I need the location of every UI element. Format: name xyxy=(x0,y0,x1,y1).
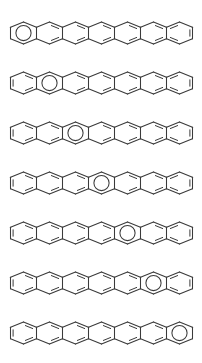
double-bond-bottom-right-ring-1 xyxy=(25,337,32,340)
heptacene-skeleton xyxy=(0,58,202,108)
molecule-row-5 xyxy=(0,208,202,258)
double-bond-bottom-right-ring-1 xyxy=(25,287,32,290)
double-bond-bottom-left-ring-7 xyxy=(170,137,177,140)
bond-bottom-left-ring-6 xyxy=(141,339,154,344)
bond-bottom-left-ring-2 xyxy=(37,339,50,344)
bond-top-left-ring-1 xyxy=(11,322,24,327)
bond-bottom-right-ring-3 xyxy=(76,289,89,294)
molecule-row-1 xyxy=(0,8,202,58)
bond-bottom-right-ring-6 xyxy=(154,189,167,194)
double-bond-bottom-right-ring-6 xyxy=(155,187,162,190)
bond-bottom-left-ring-7 xyxy=(167,139,180,144)
double-bond-top-right-ring-1 xyxy=(25,176,32,179)
bond-bottom-right-ring-6 xyxy=(154,289,167,294)
bond-bottom-left-ring-6 xyxy=(141,89,154,94)
bond-bottom-left-ring-5 xyxy=(115,139,128,144)
bond-bottom-left-ring-2 xyxy=(37,39,50,44)
bond-bottom-right-ring-4 xyxy=(102,89,115,94)
bond-bottom-left-ring-6 xyxy=(141,189,154,194)
bond-top-right-ring-6 xyxy=(154,22,167,27)
double-bond-top-right-ring-2 xyxy=(51,176,58,179)
double-bond-bottom-right-ring-3 xyxy=(77,187,84,190)
bond-bottom-right-ring-1 xyxy=(24,139,37,144)
bond-top-right-ring-2 xyxy=(50,22,63,27)
bond-top-left-ring-6 xyxy=(141,122,154,127)
bond-top-right-ring-4 xyxy=(102,322,115,327)
double-bond-bottom-left-ring-7 xyxy=(170,37,177,40)
bond-bottom-right-ring-1 xyxy=(24,289,37,294)
bond-top-left-ring-4 xyxy=(89,172,102,177)
bond-bottom-right-ring-6 xyxy=(154,89,167,94)
double-bond-bottom-left-ring-7 xyxy=(170,187,177,190)
bond-bottom-left-ring-1 xyxy=(11,89,24,94)
bond-bottom-right-ring-7 xyxy=(180,239,193,244)
bond-top-left-ring-7 xyxy=(167,122,180,127)
double-bond-bottom-right-ring-3 xyxy=(77,37,84,40)
bond-top-left-ring-6 xyxy=(141,322,154,327)
bond-top-right-ring-7 xyxy=(180,322,193,327)
heptacene-skeleton xyxy=(0,208,202,258)
double-bond-top-left-ring-7 xyxy=(170,226,177,229)
bond-top-left-ring-3 xyxy=(63,122,76,127)
bond-top-right-ring-3 xyxy=(76,22,89,27)
double-bond-top-right-ring-1 xyxy=(25,226,32,229)
double-bond-bottom-right-ring-1 xyxy=(25,187,32,190)
aromatic-sextet-circle-ring-4 xyxy=(94,175,109,190)
bond-top-right-ring-1 xyxy=(24,272,37,277)
double-bond-bottom-right-ring-4 xyxy=(103,337,110,340)
bond-bottom-right-ring-2 xyxy=(50,289,63,294)
double-bond-bottom-right-ring-5 xyxy=(129,137,136,140)
bond-bottom-right-ring-6 xyxy=(154,339,167,344)
double-bond-top-right-ring-3 xyxy=(77,226,84,229)
double-bond-top-right-ring-5 xyxy=(129,176,136,179)
double-bond-top-right-ring-1 xyxy=(25,76,32,79)
bond-top-left-ring-1 xyxy=(11,222,24,227)
bond-bottom-right-ring-5 xyxy=(128,339,141,344)
bond-bottom-right-ring-1 xyxy=(24,239,37,244)
bond-bottom-right-ring-7 xyxy=(180,139,193,144)
double-bond-top-right-ring-5 xyxy=(129,276,136,279)
bond-bottom-right-ring-7 xyxy=(180,89,193,94)
heptacene-skeleton xyxy=(0,8,202,58)
bond-bottom-left-ring-4 xyxy=(89,39,102,44)
double-bond-top-right-ring-2 xyxy=(51,26,58,29)
heptacene-skeleton xyxy=(0,108,202,158)
bond-top-right-ring-6 xyxy=(154,322,167,327)
bond-top-left-ring-3 xyxy=(63,322,76,327)
bond-top-right-ring-5 xyxy=(128,172,141,177)
bond-bottom-left-ring-4 xyxy=(89,289,102,294)
bond-bottom-left-ring-4 xyxy=(89,89,102,94)
double-bond-top-right-ring-6 xyxy=(155,176,162,179)
bond-top-right-ring-4 xyxy=(102,272,115,277)
double-bond-bottom-right-ring-6 xyxy=(155,337,162,340)
double-bond-top-left-ring-7 xyxy=(170,26,177,29)
double-bond-top-left-ring-7 xyxy=(170,176,177,179)
bond-bottom-left-ring-3 xyxy=(63,89,76,94)
bond-bottom-left-ring-3 xyxy=(63,39,76,44)
double-bond-top-right-ring-3 xyxy=(77,326,84,329)
bond-top-right-ring-4 xyxy=(102,172,115,177)
bond-top-left-ring-5 xyxy=(115,222,128,227)
bond-top-right-ring-6 xyxy=(154,122,167,127)
bond-top-left-ring-3 xyxy=(63,222,76,227)
double-bond-top-right-ring-4 xyxy=(103,276,110,279)
bond-top-left-ring-7 xyxy=(167,222,180,227)
bond-bottom-right-ring-5 xyxy=(128,89,141,94)
double-bond-top-left-ring-7 xyxy=(170,276,177,279)
heptacene-skeleton xyxy=(0,158,202,208)
double-bond-bottom-right-ring-5 xyxy=(129,87,136,90)
double-bond-top-right-ring-6 xyxy=(155,76,162,79)
bond-top-right-ring-1 xyxy=(24,322,37,327)
bond-top-left-ring-6 xyxy=(141,22,154,27)
bond-top-right-ring-4 xyxy=(102,122,115,127)
bond-bottom-right-ring-2 xyxy=(50,89,63,94)
double-bond-bottom-right-ring-4 xyxy=(103,87,110,90)
double-bond-bottom-right-ring-3 xyxy=(77,87,84,90)
double-bond-top-right-ring-1 xyxy=(25,276,32,279)
bond-bottom-right-ring-7 xyxy=(180,289,193,294)
bond-bottom-right-ring-7 xyxy=(180,339,193,344)
bond-bottom-left-ring-3 xyxy=(63,189,76,194)
bond-top-left-ring-4 xyxy=(89,22,102,27)
bond-bottom-left-ring-5 xyxy=(115,239,128,244)
aromatic-sextet-circle-ring-1 xyxy=(16,25,31,40)
